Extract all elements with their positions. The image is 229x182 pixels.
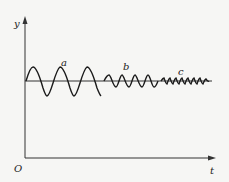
x-axis-arrow-icon bbox=[208, 156, 216, 161]
waveform-diagram: y t O a b c bbox=[0, 0, 229, 182]
wave-a-label: a bbox=[61, 57, 67, 68]
origin-label: O bbox=[14, 163, 22, 174]
wave-c-label: c bbox=[178, 66, 184, 77]
x-axis-label: t bbox=[210, 165, 215, 176]
wave-b-label: b bbox=[123, 61, 129, 72]
y-axis-label: y bbox=[13, 18, 20, 29]
y-axis-arrow-icon bbox=[23, 16, 28, 24]
